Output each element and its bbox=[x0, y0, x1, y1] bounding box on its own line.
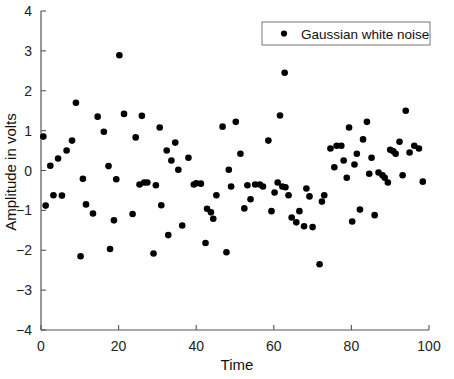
data-point bbox=[198, 180, 205, 187]
data-point bbox=[172, 139, 179, 146]
y-tick-label: 3 bbox=[24, 43, 32, 59]
data-point bbox=[241, 205, 248, 212]
y-tick-label: 0 bbox=[24, 163, 32, 179]
x-axis-title: Time bbox=[221, 356, 254, 373]
x-tick-label: 20 bbox=[111, 338, 127, 354]
data-point bbox=[139, 113, 146, 120]
data-point bbox=[69, 137, 76, 144]
data-point bbox=[168, 157, 175, 164]
data-point bbox=[107, 246, 114, 253]
data-point bbox=[244, 182, 251, 189]
data-point bbox=[338, 142, 345, 149]
data-point bbox=[153, 182, 160, 189]
data-point bbox=[185, 154, 192, 161]
data-point bbox=[349, 218, 356, 225]
data-point bbox=[40, 133, 47, 140]
data-point bbox=[210, 215, 217, 222]
data-point bbox=[94, 113, 101, 120]
data-point bbox=[351, 161, 358, 168]
data-point bbox=[50, 192, 57, 199]
data-point bbox=[55, 155, 62, 162]
data-point bbox=[163, 147, 170, 154]
data-point bbox=[406, 149, 413, 156]
data-point bbox=[399, 172, 406, 179]
data-point bbox=[371, 212, 378, 219]
data-point bbox=[366, 170, 373, 177]
data-point bbox=[208, 209, 215, 216]
data-point bbox=[144, 179, 151, 186]
x-tick-label: 100 bbox=[417, 338, 441, 354]
data-point bbox=[301, 223, 308, 230]
data-point bbox=[285, 192, 292, 199]
legend-label: Gaussian white noise bbox=[301, 27, 429, 42]
data-point bbox=[165, 232, 172, 239]
data-point bbox=[47, 162, 54, 169]
data-point bbox=[129, 211, 136, 218]
data-point bbox=[316, 261, 323, 268]
data-point bbox=[83, 201, 90, 208]
data-point bbox=[213, 192, 220, 199]
data-point bbox=[73, 99, 80, 106]
legend: Gaussian white noise bbox=[262, 22, 430, 45]
data-point bbox=[219, 123, 226, 130]
data-point bbox=[247, 196, 254, 203]
data-point bbox=[327, 145, 334, 152]
data-point bbox=[343, 174, 350, 181]
data-point bbox=[360, 136, 367, 143]
data-point bbox=[116, 52, 123, 59]
data-point bbox=[368, 154, 375, 161]
data-point bbox=[132, 134, 139, 141]
data-point bbox=[321, 192, 328, 199]
data-point bbox=[113, 176, 120, 183]
data-point bbox=[150, 250, 157, 257]
data-point bbox=[277, 112, 284, 119]
data-point bbox=[77, 253, 84, 260]
data-point bbox=[265, 137, 272, 144]
data-point bbox=[237, 150, 244, 157]
data-point bbox=[364, 119, 371, 126]
data-point bbox=[105, 163, 112, 170]
data-point bbox=[392, 150, 399, 157]
data-point bbox=[288, 214, 295, 221]
data-point bbox=[111, 217, 118, 224]
y-tick-label: 2 bbox=[24, 83, 32, 99]
data-point bbox=[319, 198, 326, 205]
data-point bbox=[281, 70, 288, 77]
data-point bbox=[306, 193, 313, 200]
data-point bbox=[396, 138, 403, 145]
data-point bbox=[175, 166, 182, 173]
data-point bbox=[357, 206, 364, 213]
y-tick-label: 1 bbox=[24, 123, 32, 139]
data-point bbox=[309, 224, 316, 231]
x-tick-label: 60 bbox=[266, 338, 282, 354]
y-tick-label: −3 bbox=[16, 282, 32, 298]
data-point bbox=[346, 124, 353, 131]
data-point bbox=[80, 176, 87, 183]
data-point bbox=[90, 210, 97, 217]
data-point bbox=[59, 192, 66, 199]
y-axis-title: Amplitude in volts bbox=[2, 113, 19, 231]
data-point bbox=[202, 240, 209, 247]
y-tick-label: −2 bbox=[16, 242, 32, 258]
data-point bbox=[268, 208, 275, 215]
data-point bbox=[101, 129, 108, 136]
data-point bbox=[179, 222, 186, 229]
x-tick-label: 0 bbox=[37, 338, 45, 354]
data-point bbox=[282, 184, 289, 191]
data-point bbox=[402, 107, 409, 114]
x-tick-label: 80 bbox=[344, 338, 360, 354]
data-point bbox=[223, 249, 230, 256]
data-point bbox=[228, 183, 235, 190]
scatter-plot-figure: −4−3−2−101234 020406080100 Gaussian whit… bbox=[0, 0, 454, 379]
x-axis-ticks: 020406080100 bbox=[37, 325, 441, 354]
y-tick-label: 4 bbox=[24, 3, 32, 19]
data-point bbox=[158, 202, 165, 209]
data-point bbox=[293, 219, 300, 226]
plot-canvas: −4−3−2−101234 020406080100 Gaussian whit… bbox=[0, 0, 454, 379]
data-point bbox=[232, 119, 239, 126]
data-point bbox=[331, 164, 338, 171]
data-point bbox=[63, 147, 70, 154]
data-point bbox=[416, 145, 423, 152]
y-tick-label: −4 bbox=[16, 322, 32, 338]
data-point bbox=[419, 178, 426, 185]
